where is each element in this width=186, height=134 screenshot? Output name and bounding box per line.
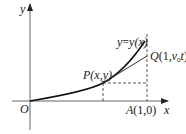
point-p-label: P(x,y) xyxy=(82,68,112,82)
pursuit-curve-diagram: y x O y=y(x) P(x,y) Q(1,v0t) A(1,0) xyxy=(0,0,186,134)
curve-label: y=y(x) xyxy=(116,35,148,49)
y-axis-label: y xyxy=(19,2,26,16)
point-a-label: A(1,0) xyxy=(125,103,156,117)
origin-label: O xyxy=(20,102,29,116)
point-q-label: Q(1,v0t) xyxy=(150,49,186,64)
x-axis-label: x xyxy=(163,103,170,117)
